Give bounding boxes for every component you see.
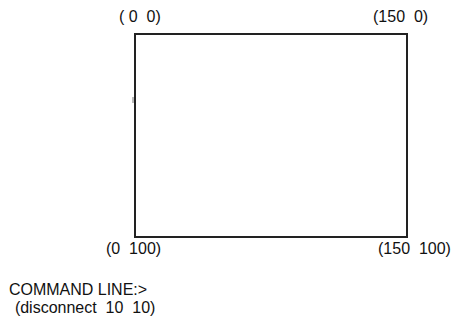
- corner-label-bottom-right: (150 100): [378, 240, 451, 258]
- command-line[interactable]: COMMAND LINE:> (disconnect 10 10): [0, 263, 155, 317]
- drawing-area[interactable]: [134, 33, 408, 238]
- command-prompt: COMMAND LINE:>: [9, 281, 147, 298]
- corner-label-bottom-left: (0 100): [106, 240, 161, 258]
- corner-label-top-right: (150 0): [373, 8, 428, 26]
- command-input[interactable]: (disconnect 10 10): [15, 299, 156, 316]
- corner-label-top-left: ( 0 0): [119, 8, 161, 26]
- edge-mark: [132, 97, 134, 103]
